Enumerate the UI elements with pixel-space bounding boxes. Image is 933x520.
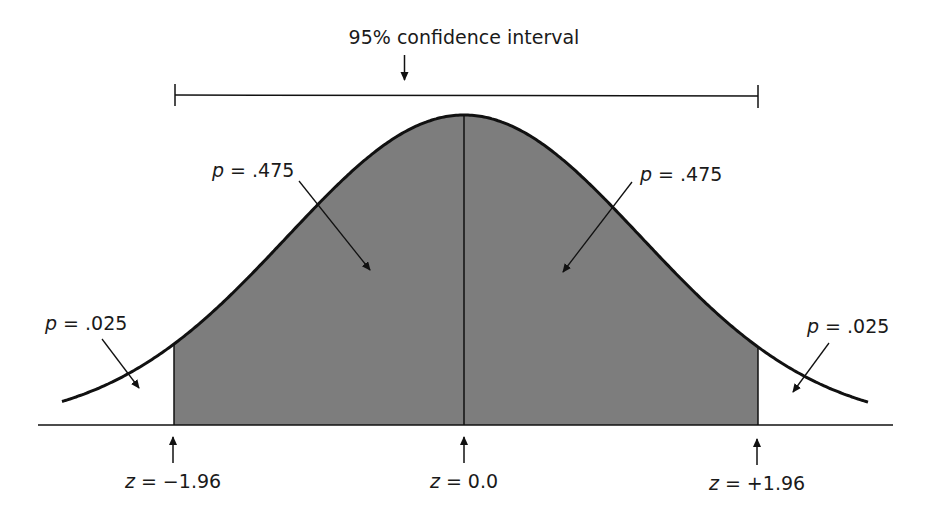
label-z-right: z = +1.96 (708, 472, 805, 494)
label-z-center: z = 0.0 (429, 470, 498, 492)
label-p-right-tail: p = .025 (806, 315, 889, 337)
confidence-interval-bar (175, 84, 758, 108)
arrow-left-tail-icon (102, 339, 139, 388)
label-p-left-center: p = .475 (211, 159, 294, 181)
label-p-left-tail: p = .025 (44, 312, 127, 334)
normal-distribution-diagram: 95% confidence interval p = .475 p = .47… (0, 0, 933, 520)
label-p-right-center: p = .475 (639, 163, 722, 185)
ci-title: 95% confidence interval (349, 26, 580, 48)
label-z-left: z = −1.96 (124, 470, 221, 492)
